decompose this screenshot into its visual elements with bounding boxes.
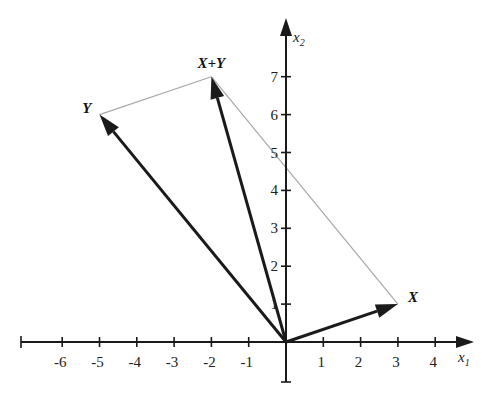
guide-line bbox=[211, 77, 398, 304]
labels: -6-5-4-3-2-112341234567x1x2XYX+Y bbox=[54, 29, 470, 370]
y-tick-label: 5 bbox=[271, 145, 279, 161]
y-axis-arrow-icon bbox=[280, 18, 292, 36]
parallelogram-guides bbox=[100, 77, 398, 304]
y-tick-label: 3 bbox=[271, 220, 279, 236]
x-tick-label: -2 bbox=[203, 354, 216, 370]
x-tick-label: 4 bbox=[429, 354, 437, 370]
y-tick-label: 6 bbox=[271, 107, 279, 123]
y-tick-label: 7 bbox=[271, 69, 279, 85]
x-axis-arrow-icon bbox=[456, 336, 474, 348]
x-tick-label: -5 bbox=[91, 354, 104, 370]
vector-addition-diagram: -6-5-4-3-2-112341234567x1x2XYX+Y bbox=[0, 0, 493, 394]
x-tick-label: -1 bbox=[240, 354, 253, 370]
vector-y bbox=[113, 132, 286, 342]
vector-x bbox=[286, 311, 377, 342]
y-axis-label-subscript: 2 bbox=[300, 37, 305, 48]
y-axis-label: x2 bbox=[292, 29, 305, 48]
x-tick-label: -4 bbox=[129, 354, 142, 370]
vector-y-label: Y bbox=[82, 100, 93, 116]
guide-line bbox=[100, 77, 212, 115]
x-tick-label: -3 bbox=[166, 354, 179, 370]
vector-x-plus-y-arrowhead-icon bbox=[211, 77, 224, 100]
x-tick-label: 3 bbox=[392, 354, 400, 370]
x-tick-label: 1 bbox=[318, 354, 326, 370]
vector-x-label: X bbox=[407, 289, 419, 305]
y-tick-label: 1 bbox=[271, 296, 279, 312]
x-tick-label: 2 bbox=[355, 354, 363, 370]
x-axis-label: x1 bbox=[457, 349, 470, 368]
y-tick-label: 4 bbox=[271, 182, 279, 198]
vectors bbox=[100, 77, 398, 342]
vector-x-arrowhead-icon bbox=[375, 304, 398, 318]
vector-x-plus-y-label: X+Y bbox=[197, 55, 228, 71]
y-tick-label: 2 bbox=[271, 258, 279, 274]
x-axis-label-subscript: 1 bbox=[465, 357, 470, 368]
x-tick-label: -6 bbox=[54, 354, 67, 370]
